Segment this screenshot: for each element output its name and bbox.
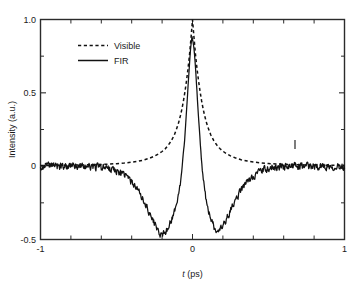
- y-tick-label-3: 0: [31, 161, 36, 171]
- chart-background: [0, 0, 356, 294]
- x-tick-label-2: 0: [190, 244, 195, 254]
- y-tick-label-1: 1.0: [23, 15, 36, 25]
- x-tick-label-3: 1: [342, 244, 347, 254]
- x-axis-label-unit: (ps): [185, 269, 203, 279]
- chart-plot: 1.0 0.5 0 -0.5 -1 0 1 Intensity (a.u.) t…: [0, 0, 356, 294]
- figure-container: 1.0 0.5 0 -0.5 -1 0 1 Intensity (a.u.) t…: [0, 0, 356, 294]
- legend-label-fir: FIR: [114, 56, 129, 66]
- svg-text:t (ps): t (ps): [182, 269, 203, 279]
- x-axis-label: t (ps): [182, 269, 203, 279]
- legend-label-visible: Visible: [114, 41, 140, 51]
- y-axis-label: Intensity (a.u.): [7, 101, 17, 158]
- y-tick-label-2: 0.5: [23, 88, 36, 98]
- y-tick-label-4: -0.5: [20, 235, 36, 245]
- x-tick-label-1: -1: [36, 244, 44, 254]
